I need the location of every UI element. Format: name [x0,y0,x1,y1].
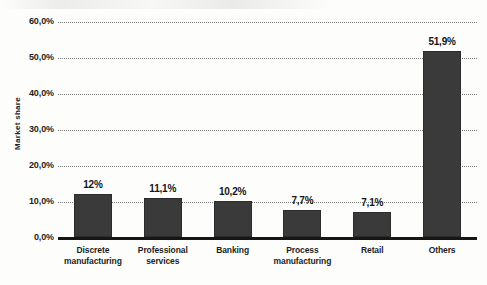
x-axis-category-label: Processmanufacturing [268,245,338,267]
x-axis-category-line: Discrete [58,245,128,256]
x-axis-category-line: Retail [337,245,407,256]
x-axis-category-label: Professionalservices [128,245,198,267]
y-axis-tick-label: 50,0% [6,52,54,62]
bar [283,210,321,238]
bar-value-label: 12% [53,179,133,190]
y-axis-tick-label: 40,0% [6,88,54,98]
y-axis-tick-label: 10,0% [6,196,54,206]
bar-value-label: 51,9% [402,36,482,47]
x-axis-category-line: Professional [128,245,198,256]
x-axis-category-label: Discretemanufacturing [58,245,128,267]
x-axis-category-line: manufacturing [58,256,128,267]
bar-value-label: 11,1% [123,183,203,194]
bar-value-label: 10,2% [193,186,273,197]
gridline [58,94,477,95]
gridline [58,130,477,131]
bar [74,194,112,237]
bar [353,212,391,238]
bar-chart: Market share 60,0%50,0%40,0%30,0%20,0%10… [0,0,487,285]
bar-value-label: 7,7% [262,195,342,206]
x-axis-category-line: Process [268,245,338,256]
x-axis-category-label: Others [407,245,477,256]
x-axis-category-line: services [128,256,198,267]
gridline [58,58,477,59]
y-axis-tick-label: 60,0% [6,16,54,26]
bar [144,198,182,238]
bar [423,51,461,237]
y-axis-tick-label: 0,0% [6,232,54,242]
bar [214,201,252,238]
y-axis-tick-label: 20,0% [6,160,54,170]
x-axis-category-line: Banking [198,245,268,256]
gridline [58,22,477,23]
gridline [58,166,477,167]
x-axis-line [58,237,477,240]
bar-value-label: 7,1% [332,197,412,208]
x-axis-category-line: manufacturing [268,256,338,267]
scan-artifact [0,0,487,9]
x-axis-category-label: Retail [337,245,407,256]
x-axis-category-label: Banking [198,245,268,256]
y-axis-tick-label: 30,0% [6,124,54,134]
x-axis-category-line: Others [407,245,477,256]
